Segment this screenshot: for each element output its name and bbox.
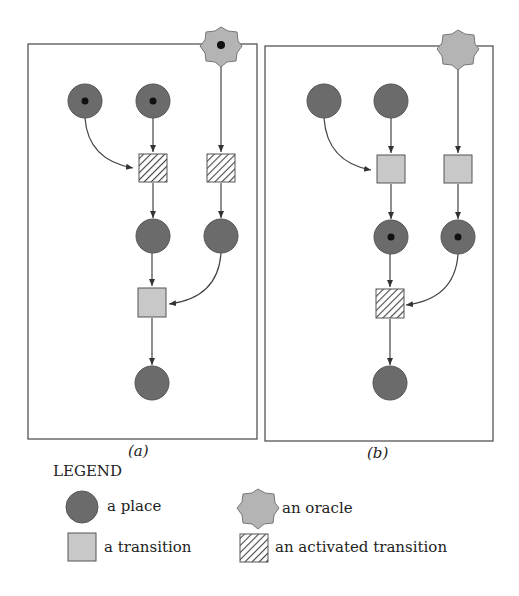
token [388, 234, 395, 241]
legend-label-transition: a transition [104, 538, 192, 556]
caption-a: (a) [128, 442, 149, 460]
place [136, 219, 170, 253]
arc [324, 118, 371, 170]
legend-activated-transition-icon [240, 534, 268, 562]
legend-transition-icon [68, 533, 96, 561]
panel-b [265, 30, 493, 441]
arc [169, 253, 221, 304]
legend-oracle-icon [237, 489, 279, 529]
activated-transition [376, 289, 404, 318]
transition [444, 155, 472, 183]
place [135, 366, 169, 400]
place [374, 84, 408, 118]
token [82, 98, 89, 105]
legend-label-oracle: an oracle [282, 499, 353, 517]
activated-transition [207, 154, 235, 182]
arc [406, 254, 458, 305]
legend-label-activated-transition: an activated transition [275, 538, 447, 556]
caption-b: (b) [367, 444, 388, 462]
legend-title: LEGEND [53, 462, 122, 480]
arc [85, 118, 133, 168]
token [455, 234, 462, 241]
activated-transition [139, 154, 167, 182]
oracle [437, 30, 479, 70]
token [217, 41, 225, 49]
place [204, 219, 238, 253]
legend-place-icon [66, 491, 98, 523]
panel-a [28, 27, 257, 439]
legend-label-place: a place [107, 497, 161, 515]
place [373, 366, 407, 400]
transition [377, 155, 405, 183]
transition [138, 288, 166, 317]
place [307, 84, 341, 118]
petri-net-figure [0, 0, 519, 596]
token [150, 98, 157, 105]
